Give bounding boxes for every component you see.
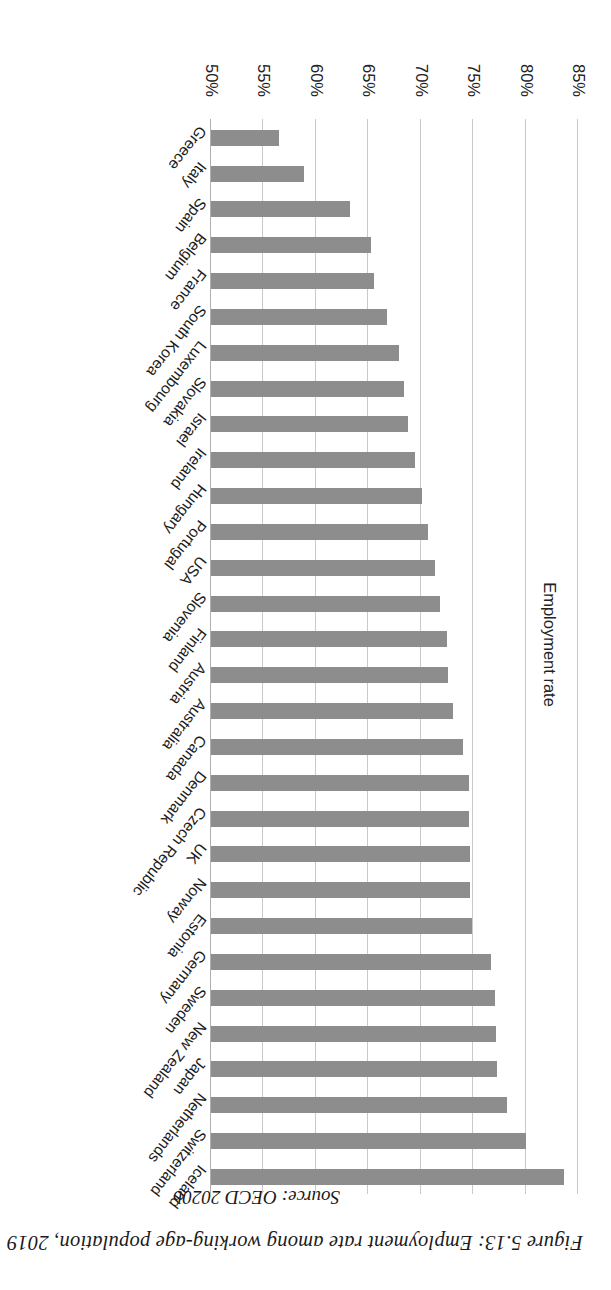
bar-row bbox=[211, 191, 578, 227]
bar-norway bbox=[211, 882, 470, 898]
bar-row bbox=[211, 477, 578, 513]
bar-row bbox=[211, 657, 578, 693]
bar-row bbox=[211, 262, 578, 298]
figure-rotator: Figure 5.13: Employment rate among worki… bbox=[0, 0, 611, 1290]
bar-austria bbox=[211, 667, 448, 683]
y-tick-labels: 50%55%60%65%70%75%80%85% bbox=[211, 32, 578, 112]
bar-ireland bbox=[211, 452, 415, 468]
bar-row bbox=[211, 298, 578, 334]
bar-portugal bbox=[211, 524, 428, 540]
bar-sweden bbox=[211, 990, 495, 1006]
bar-row bbox=[211, 334, 578, 370]
bar-row bbox=[211, 585, 578, 621]
bar-row bbox=[211, 549, 578, 585]
bar-japan bbox=[211, 1062, 497, 1078]
bar-row bbox=[211, 1015, 578, 1051]
bar-netherlands bbox=[211, 1097, 507, 1113]
bar-iceland bbox=[211, 1169, 564, 1185]
bar-usa bbox=[211, 560, 435, 576]
bar-luxembourg bbox=[211, 345, 399, 361]
bar-south-korea bbox=[211, 309, 387, 325]
bar-row bbox=[211, 1122, 578, 1158]
bar-germany bbox=[211, 954, 491, 970]
category-label: Spain bbox=[171, 194, 210, 236]
bar-denmark bbox=[211, 775, 469, 791]
bar-row bbox=[211, 1051, 578, 1087]
bar-row bbox=[211, 872, 578, 908]
y-tick-label: 85% bbox=[569, 61, 588, 101]
bar-row bbox=[211, 621, 578, 657]
plot-region bbox=[211, 119, 578, 1194]
bar-row bbox=[211, 227, 578, 263]
bar-row bbox=[211, 442, 578, 478]
bar-belgium bbox=[211, 237, 371, 253]
bar-czech-republic bbox=[211, 811, 469, 827]
bar-row bbox=[211, 728, 578, 764]
bar-row bbox=[211, 513, 578, 549]
bar-row bbox=[211, 764, 578, 800]
figure-caption-block: Figure 5.13: Employment rate among worki… bbox=[163, 1186, 583, 1256]
y-tick-label: 75% bbox=[464, 61, 483, 101]
bar-row bbox=[211, 119, 578, 155]
bar-israel bbox=[211, 417, 408, 433]
chart-area: Employment rate IcelandSwitzerlandNether… bbox=[0, 24, 611, 1194]
bar-france bbox=[211, 273, 374, 289]
bar-row bbox=[211, 370, 578, 406]
bar-series bbox=[211, 119, 578, 1194]
y-tick-label: 50% bbox=[202, 61, 221, 101]
bar-spain bbox=[211, 202, 350, 218]
bar-estonia bbox=[211, 918, 472, 934]
bar-italy bbox=[211, 166, 304, 182]
bar-slovakia bbox=[211, 381, 404, 397]
bar-row bbox=[211, 800, 578, 836]
bar-new-zealand bbox=[211, 1026, 496, 1042]
bar-finland bbox=[211, 632, 447, 648]
bar-row bbox=[211, 943, 578, 979]
bar-slovenia bbox=[211, 596, 440, 612]
bar-row bbox=[211, 907, 578, 943]
bar-row bbox=[211, 979, 578, 1015]
category-labels: IcelandSwitzerlandNetherlandsJapanNew Ze… bbox=[1, 119, 211, 1194]
figure-caption: Figure 5.13: Employment rate among worki… bbox=[163, 1228, 583, 1256]
bar-row bbox=[211, 155, 578, 191]
y-tick-label: 55% bbox=[254, 61, 273, 101]
bar-row bbox=[211, 406, 578, 442]
y-tick-label: 65% bbox=[359, 61, 378, 101]
bar-row bbox=[211, 1087, 578, 1123]
bar-hungary bbox=[211, 488, 422, 504]
bar-canada bbox=[211, 739, 463, 755]
bar-row bbox=[211, 692, 578, 728]
y-tick-label: 70% bbox=[411, 61, 430, 101]
bar-uk bbox=[211, 847, 470, 863]
bar-switzerland bbox=[211, 1133, 526, 1149]
bar-greece bbox=[211, 130, 279, 146]
y-tick-label: 60% bbox=[306, 61, 325, 101]
bar-row bbox=[211, 836, 578, 872]
y-tick-label: 80% bbox=[516, 61, 535, 101]
bar-australia bbox=[211, 703, 453, 719]
bar-row bbox=[211, 1158, 578, 1194]
